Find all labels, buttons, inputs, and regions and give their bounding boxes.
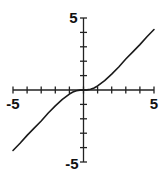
x-tick-label-max: 5 [150, 95, 158, 112]
y-tick-label-min: -5 [65, 155, 78, 172]
y-tick-label-max: 5 [69, 9, 77, 26]
function-plot: -5 5 5 -5 [0, 0, 167, 177]
x-tick-label-min: -5 [6, 95, 19, 112]
